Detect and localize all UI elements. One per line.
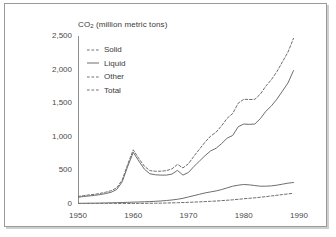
chart-legend: SolidLiquidOtherTotal [87, 44, 125, 98]
legend-item-label: Solid [104, 45, 122, 54]
legend-item-label: Other [104, 72, 124, 81]
x-axis-tick-label: 1980 [224, 211, 264, 220]
legend-item-total[interactable]: Total [87, 85, 125, 96]
x-axis-tick-label: 1960 [113, 211, 153, 220]
chart-title: CO2 (million metric tons) [78, 20, 167, 29]
chart-title-rest: (million metric tons) [94, 20, 168, 29]
y-axis-tick-label: 0 [30, 199, 72, 208]
y-axis-tick-label: 1,000 [30, 132, 72, 141]
y-axis-tick-label: 1,500 [30, 98, 72, 107]
x-axis-tick-label: 1970 [169, 211, 209, 220]
chart-frame: CO2 (million metric tons) 05001,0001,500… [4, 3, 327, 227]
y-axis-tick-label: 2,500 [30, 31, 72, 40]
legend-swatch-icon [87, 87, 99, 93]
y-axis-tick-label: 500 [30, 165, 72, 174]
legend-swatch-icon [87, 74, 99, 80]
x-axis-tick-label: 1990 [279, 211, 319, 220]
legend-swatch-icon [87, 47, 99, 53]
x-axis-tick-label: 1950 [58, 211, 98, 220]
series-line-other [78, 193, 293, 204]
y-axis-tick-label: 2,000 [30, 65, 72, 74]
legend-item-liquid[interactable]: Liquid [87, 58, 125, 69]
legend-item-label: Total [104, 86, 121, 95]
legend-item-other[interactable]: Other [87, 71, 125, 82]
chart-title-main: CO [78, 20, 90, 29]
legend-item-label: Liquid [104, 59, 125, 68]
legend-swatch-icon [87, 60, 99, 66]
legend-item-solid[interactable]: Solid [87, 44, 125, 55]
